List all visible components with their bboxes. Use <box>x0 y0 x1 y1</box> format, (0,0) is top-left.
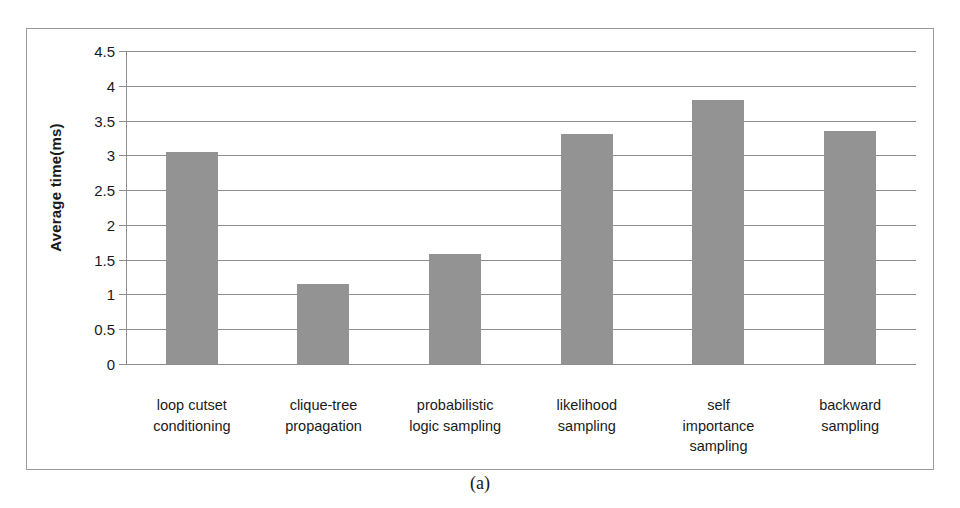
category-label-line: loop cutset <box>126 395 258 416</box>
x-axis-category-labels: loop cutsetconditioningclique-treepropag… <box>126 387 916 487</box>
category-label-line: probabilistic <box>389 395 521 416</box>
category-label-line: logic sampling <box>389 416 521 437</box>
category-label-line: propagation <box>258 416 390 437</box>
y-axis-tick <box>119 86 126 87</box>
bar[interactable] <box>692 100 744 364</box>
category-label-line: sampling <box>521 416 653 437</box>
category-label-line: backward <box>784 395 916 416</box>
bar[interactable] <box>166 152 218 364</box>
chart-frame: Average time(ms) 00.511.522.533.544.5 lo… <box>26 28 934 470</box>
category-label-line: conditioning <box>126 416 258 437</box>
figure-container: Average time(ms) 00.511.522.533.544.5 lo… <box>0 0 960 508</box>
bar-slot <box>389 51 521 364</box>
y-axis-tick <box>119 190 126 191</box>
y-axis-tick-label: 4 <box>107 77 115 94</box>
y-axis-tick-label: 2.5 <box>94 182 115 199</box>
figure-caption: (a) <box>0 473 960 494</box>
x-axis-category-label: likelihoodsampling <box>521 395 653 436</box>
x-axis-category-label: backwardsampling <box>784 395 916 436</box>
category-label-line: sampling <box>784 416 916 437</box>
y-axis-title: Average time(ms) <box>47 98 64 278</box>
bar-series <box>126 51 916 364</box>
plot-area: 00.511.522.533.544.5 <box>126 51 916 386</box>
x-axis-category-label: loop cutsetconditioning <box>126 395 258 436</box>
y-axis-tick <box>119 294 126 295</box>
y-axis-tick-label: 0.5 <box>94 321 115 338</box>
y-axis-tick <box>119 121 126 122</box>
y-axis-tick <box>119 329 126 330</box>
category-label-line: likelihood <box>521 395 653 416</box>
y-axis-tick <box>119 260 126 261</box>
bar-slot <box>126 51 258 364</box>
bar-slot <box>521 51 653 364</box>
y-axis-tick-label: 3 <box>107 147 115 164</box>
bar[interactable] <box>297 284 349 364</box>
category-label-line: importance <box>653 416 785 437</box>
bar[interactable] <box>824 131 876 364</box>
bar[interactable] <box>561 134 613 364</box>
category-label-line: clique-tree <box>258 395 390 416</box>
y-axis-tick <box>119 155 126 156</box>
y-axis-tick-label: 0 <box>107 356 115 373</box>
x-axis-category-label: selfimportancesampling <box>653 395 785 457</box>
y-axis-tick-label: 1 <box>107 286 115 303</box>
y-axis-tick <box>119 364 126 365</box>
y-axis-tick <box>119 51 126 52</box>
x-axis-category-label: probabilisticlogic sampling <box>389 395 521 436</box>
gridline <box>126 364 916 365</box>
category-label-line: self <box>653 395 785 416</box>
y-axis-tick-label: 1.5 <box>94 251 115 268</box>
y-axis-tick <box>119 225 126 226</box>
y-axis-tick-label: 3.5 <box>94 112 115 129</box>
y-axis-tick-label: 4.5 <box>94 43 115 60</box>
bar[interactable] <box>429 254 481 364</box>
category-label-line: sampling <box>653 436 785 457</box>
bar-slot <box>784 51 916 364</box>
bar-slot <box>653 51 785 364</box>
x-axis-category-label: clique-treepropagation <box>258 395 390 436</box>
y-axis-tick-label: 2 <box>107 216 115 233</box>
bar-slot <box>258 51 390 364</box>
